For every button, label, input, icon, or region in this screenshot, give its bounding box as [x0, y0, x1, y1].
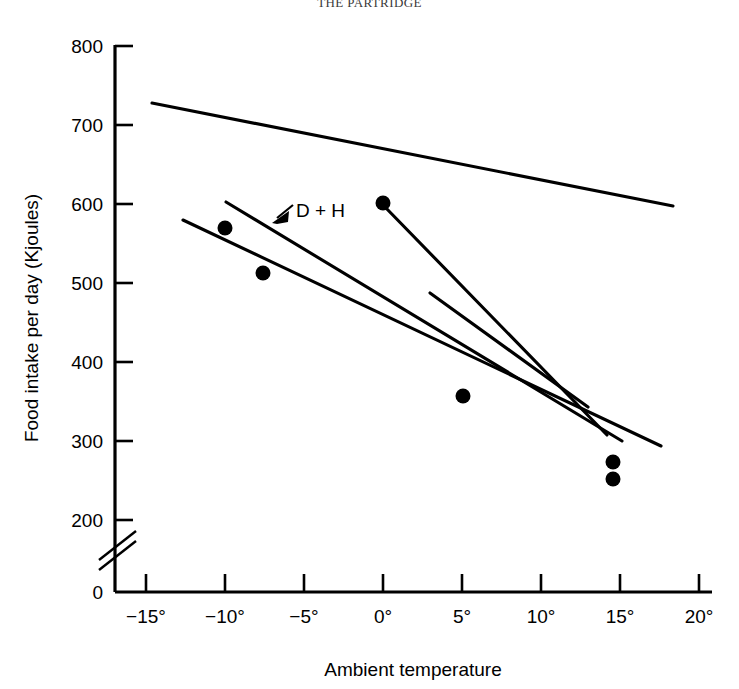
regression-line-4 [385, 207, 607, 435]
data-points [218, 196, 621, 487]
y-axis-title: Food intake per day (Kjoules) [21, 194, 42, 442]
x-tick-label: −15° [126, 606, 166, 627]
regression-line-5 [430, 293, 588, 407]
x-tick-label: 5° [453, 606, 471, 627]
x-axis-title: Ambient temperature [324, 659, 501, 680]
annotation-d-plus-h: D + H [272, 200, 345, 224]
x-tick-label: 15° [606, 606, 635, 627]
data-point [606, 455, 621, 470]
chart-plot: 800 700 600 500 400 300 200 0 −15° −10° … [0, 0, 739, 689]
y-tick-label: 700 [71, 115, 103, 136]
x-tick-label: 10° [527, 606, 556, 627]
x-tick-label: 0° [374, 606, 392, 627]
regression-line-3 [183, 220, 661, 446]
figure-container: THE PARTRIDGE [0, 0, 739, 689]
data-point [218, 221, 233, 236]
data-point [256, 266, 271, 281]
data-point [376, 196, 391, 211]
y-axis-break-mark [99, 531, 136, 570]
y-tick-label: 200 [71, 510, 103, 531]
y-tick-label: 300 [71, 431, 103, 452]
x-tick-label: −10° [205, 606, 245, 627]
y-tick-label: 600 [71, 194, 103, 215]
x-axis-ticks [146, 574, 699, 592]
annotation-label: D + H [296, 200, 345, 221]
data-point [606, 472, 621, 487]
x-tick-label: −5° [289, 606, 318, 627]
regression-line-1 [152, 103, 673, 206]
trend-lines [152, 103, 673, 446]
y-axis-ticks [115, 46, 133, 520]
y-tick-label: 0 [92, 582, 103, 603]
x-tick-label: 20° [685, 606, 714, 627]
regression-line-2 [226, 202, 622, 441]
arrow-head-icon [272, 211, 289, 224]
data-point [456, 389, 471, 404]
x-tick-labels: −15° −10° −5° 0° 5° 10° 15° 20° [126, 606, 713, 627]
y-tick-label: 400 [71, 352, 103, 373]
y-tick-label: 800 [71, 36, 103, 57]
y-tick-label: 500 [71, 273, 103, 294]
y-tick-labels: 800 700 600 500 400 300 200 0 [71, 36, 103, 603]
